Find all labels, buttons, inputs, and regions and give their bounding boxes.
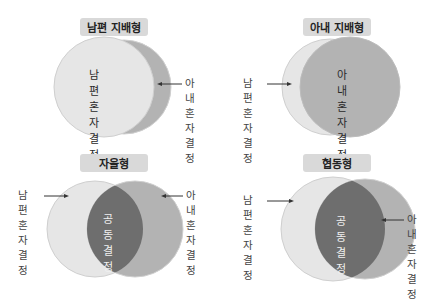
panel-autonomous-shapes bbox=[44, 181, 183, 277]
label-line: 결정 bbox=[185, 136, 195, 166]
panel-husband-dominant-shapes bbox=[54, 37, 182, 137]
label-line: 혼자 bbox=[186, 218, 196, 248]
panel-title: 남편 지배형 bbox=[80, 18, 148, 36]
inner-label: 공동 결정 bbox=[103, 212, 113, 276]
label-line: 혼자 bbox=[89, 100, 99, 132]
right-label: 아내 혼자 결정 bbox=[185, 76, 195, 166]
label-line: 혼자 bbox=[407, 242, 417, 272]
left-label: 남편 혼자 결정 bbox=[243, 193, 253, 283]
inner-label: 공동 결정 bbox=[336, 214, 346, 278]
label-line: 남편 bbox=[89, 68, 99, 100]
panel-title: 자율형 bbox=[80, 154, 148, 172]
right-label: 아내 혼자 결정 bbox=[407, 212, 417, 302]
label-line: 혼자 bbox=[185, 106, 195, 136]
label-line: 아내 bbox=[337, 68, 347, 100]
label-line: 결정 bbox=[186, 248, 196, 278]
label-line: 공동 bbox=[103, 212, 113, 244]
label-line: 공동 bbox=[336, 214, 346, 246]
left-label: 남편 혼자 결정 bbox=[243, 76, 253, 166]
inner-label: 남편 혼자 결정 bbox=[89, 68, 99, 164]
wife-circle bbox=[300, 37, 400, 137]
label-line: 아내 bbox=[185, 76, 195, 106]
panel-title: 아내 지배형 bbox=[303, 18, 371, 36]
panel-wife-dominant-shapes bbox=[267, 37, 400, 137]
label-line: 아내 bbox=[186, 188, 196, 218]
right-label: 아내 혼자 결정 bbox=[186, 188, 196, 278]
label-line: 남편 bbox=[243, 193, 253, 223]
label-line: 결정 bbox=[103, 244, 113, 276]
label-line: 혼자 bbox=[18, 218, 28, 248]
inner-label: 아내 혼자 결정 bbox=[337, 68, 347, 164]
label-line: 혼자 bbox=[337, 100, 347, 132]
label-line: 결정 bbox=[336, 246, 346, 278]
husband-circle bbox=[54, 37, 154, 137]
label-line: 남편 bbox=[243, 76, 253, 106]
label-line: 결정 bbox=[243, 136, 253, 166]
left-label: 남편 혼자 결정 bbox=[18, 188, 28, 278]
label-line: 결정 bbox=[18, 248, 28, 278]
label-line: 혼자 bbox=[243, 106, 253, 136]
label-line: 혼자 bbox=[243, 223, 253, 253]
label-line: 남편 bbox=[18, 188, 28, 218]
label-line: 결정 bbox=[407, 272, 417, 302]
panel-title: 협동형 bbox=[303, 154, 371, 172]
label-line: 아내 bbox=[407, 212, 417, 242]
label-line: 결정 bbox=[243, 253, 253, 283]
